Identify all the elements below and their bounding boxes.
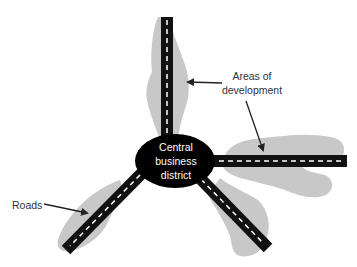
development-label-line-1: Areas of (232, 70, 271, 82)
cbd-label-line-3: district (161, 169, 191, 181)
roads-label-group: Roads (12, 199, 87, 213)
cbd-label-line-1: Central (159, 141, 193, 153)
development-label-line-2: development (222, 84, 282, 96)
diagram-canvas: Central business district Areas of devel… (0, 0, 357, 267)
roads (66, 17, 347, 250)
roads-label: Roads (12, 199, 42, 211)
arrow-to-north-area (188, 82, 222, 83)
cbd-label-line-2: business (155, 155, 196, 167)
central-business-district: Central business district (135, 134, 215, 188)
